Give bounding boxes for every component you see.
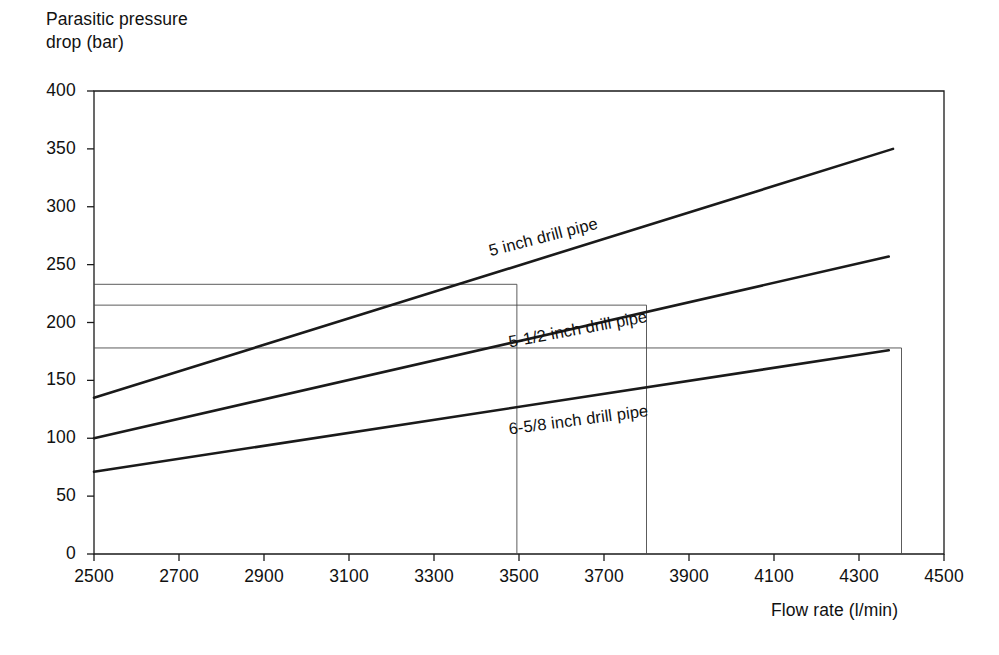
y-tick-label: 350 <box>16 138 76 159</box>
y-tick-label: 300 <box>16 196 76 217</box>
x-tick-label: 2700 <box>144 566 214 587</box>
x-tick-label: 4500 <box>909 566 979 587</box>
plot-frame <box>94 91 944 554</box>
x-tick-label: 2500 <box>59 566 129 587</box>
y-tick-label: 100 <box>16 427 76 448</box>
y-tick-label: 150 <box>16 369 76 390</box>
x-tick-label: 3900 <box>654 566 724 587</box>
y-tick-label: 0 <box>16 543 76 564</box>
x-tick-label: 3100 <box>314 566 384 587</box>
plot-area <box>0 0 999 655</box>
y-tick-label: 400 <box>16 80 76 101</box>
y-tick-label: 200 <box>16 312 76 333</box>
x-tick-label: 2900 <box>229 566 299 587</box>
x-tick-label: 3700 <box>569 566 639 587</box>
x-tick-label: 3500 <box>484 566 554 587</box>
y-tick-label: 50 <box>16 485 76 506</box>
x-tick-label: 4300 <box>824 566 894 587</box>
series-line <box>94 149 893 398</box>
y-tick-label: 250 <box>16 254 76 275</box>
parasitic-pressure-drop-chart: Parasitic pressuredrop (bar) Flow rate (… <box>0 0 999 655</box>
x-tick-label: 4100 <box>739 566 809 587</box>
x-tick-label: 3300 <box>399 566 469 587</box>
